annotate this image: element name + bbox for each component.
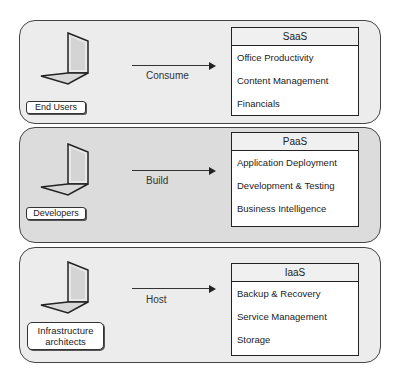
service-title: IaaS: [232, 264, 358, 282]
service-item: Backup & Recovery: [232, 282, 358, 305]
paas-tier-panel: Developers Build PaaS Application Deploy…: [19, 127, 381, 243]
service-box: SaaS Office Productivity Content Managem…: [231, 27, 359, 116]
arrow-icon: [132, 65, 214, 66]
service-title: SaaS: [232, 28, 358, 46]
service-item: Content Management: [232, 69, 358, 92]
service-item: Office Productivity: [232, 46, 358, 69]
saas-tier-panel: End Users Consume SaaS Office Productivi…: [19, 20, 381, 124]
service-item: Application Deployment: [232, 151, 358, 174]
role-label: End Users: [26, 101, 86, 114]
role-label: Developers: [26, 207, 86, 220]
service-item: Development & Testing: [232, 174, 358, 197]
arrow-icon: [132, 170, 214, 171]
service-box: PaaS Application Deployment Development …: [231, 132, 359, 227]
iaas-tier-panel: Infrastructure architects Host IaaS Back…: [19, 247, 381, 363]
service-item: Business Intelligence: [232, 197, 358, 220]
service-item: Service Management: [232, 305, 358, 328]
action-label: Host: [146, 294, 167, 305]
action-label: Build: [146, 175, 168, 186]
laptop-icon: [38, 29, 100, 87]
service-item: Storage: [232, 328, 358, 351]
laptop-icon: [38, 140, 100, 198]
arrow-icon: [132, 288, 214, 289]
service-box: IaaS Backup & Recovery Service Managemen…: [231, 263, 359, 356]
service-item: Financials: [232, 92, 358, 115]
action-label: Consume: [146, 70, 189, 81]
laptop-icon: [38, 258, 100, 316]
service-title: PaaS: [232, 133, 358, 151]
role-label: Infrastructure architects: [27, 322, 104, 350]
